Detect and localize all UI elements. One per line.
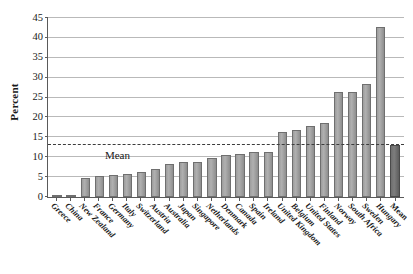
bar-slot — [78, 18, 92, 197]
x-label-slot: Spain — [247, 202, 261, 274]
y-axis-tick-label: 40 — [33, 33, 44, 44]
x-label-slot: Canada — [233, 202, 247, 274]
y-axis-tick-label: 30 — [33, 72, 44, 83]
x-label-slot: Hungary — [374, 202, 388, 274]
bar-slot — [303, 18, 317, 197]
bar-slot — [120, 18, 134, 197]
bar-slot — [374, 18, 388, 197]
x-label-slot: New Zealand — [77, 202, 91, 274]
mean-reference-line — [48, 144, 404, 145]
x-label-slot: Mean — [388, 202, 402, 274]
x-label-slot: Germany — [106, 202, 120, 274]
x-axis-tick-mark — [211, 198, 212, 201]
bar-sweden — [362, 84, 371, 197]
bar-ireland — [264, 152, 273, 197]
bar-chart: Percent 051015202530354045 Mean GreeceCh… — [0, 0, 413, 274]
bar-germany — [109, 175, 118, 197]
y-axis-tick-label: 20 — [33, 112, 44, 123]
x-label-slot: Austria — [148, 202, 162, 274]
x-axis-label: Mean — [388, 202, 409, 222]
x-label-slot: United Kingdom — [275, 202, 289, 274]
plot-area: 051015202530354045 Mean — [47, 18, 404, 198]
x-label-slot: Finland — [317, 202, 331, 274]
bar-slot — [163, 18, 177, 197]
x-label-slot: Greece — [49, 202, 63, 274]
bar-belgium — [292, 130, 301, 197]
bar-slot — [106, 18, 120, 197]
y-axis-tick-label: 25 — [33, 92, 44, 103]
bar-slot — [191, 18, 205, 197]
bar-denmark — [221, 155, 230, 197]
x-axis-labels: GreeceChinaNew ZealandFranceGermanyItaly… — [47, 202, 404, 274]
y-axis-tick-label: 0 — [38, 192, 43, 203]
bar-italy — [123, 174, 132, 197]
x-label-slot: Norway — [332, 202, 346, 274]
bar-slot — [177, 18, 191, 197]
bar-netherlands — [207, 158, 216, 197]
bar-slot — [289, 18, 303, 197]
y-axis-tick-label: 10 — [33, 152, 44, 163]
bar-slot — [205, 18, 219, 197]
x-label-slot: Italy — [120, 202, 134, 274]
bar-slot — [233, 18, 247, 197]
bar-australia — [165, 164, 174, 197]
bar-slot — [346, 18, 360, 197]
x-axis-tick-mark — [324, 198, 325, 201]
y-axis-title: Percent — [8, 67, 20, 137]
bar-finland — [320, 123, 329, 197]
x-label-slot: Japan — [176, 202, 190, 274]
bar-greece — [52, 195, 61, 197]
bar-hungary — [376, 27, 385, 197]
bar-slot — [92, 18, 106, 197]
mean-line-label: Mean — [105, 149, 130, 161]
bar-slot — [388, 18, 402, 197]
bar-canada — [235, 154, 244, 197]
bar-spain — [249, 152, 258, 197]
bar-mean — [390, 145, 399, 198]
bar-slot — [247, 18, 261, 197]
bar-united-states — [306, 126, 315, 197]
bar-slot — [332, 18, 346, 197]
bar-slot — [134, 18, 148, 197]
bar-united-kingdom — [278, 132, 287, 197]
bar-slot — [360, 18, 374, 197]
bar-slot — [261, 18, 275, 197]
y-axis-tick-label: 15 — [33, 132, 44, 143]
bar-slot — [50, 18, 64, 197]
bar-slot — [317, 18, 331, 197]
bar-new-zealand — [81, 178, 90, 197]
x-label-slot: Singapore — [190, 202, 204, 274]
y-axis-tick-label: 5 — [38, 172, 43, 183]
y-axis-tick-label: 35 — [33, 53, 44, 64]
bar-france — [95, 176, 104, 197]
x-label-slot: United States — [303, 202, 317, 274]
x-label-slot: Belgium — [289, 202, 303, 274]
x-label-slot: Switzerland — [134, 202, 148, 274]
x-label-slot: Sweden — [360, 202, 374, 274]
x-label-slot: France — [91, 202, 105, 274]
x-label-slot: Netherlands — [204, 202, 218, 274]
bar-austria — [151, 169, 160, 197]
x-axis-tick-mark — [98, 198, 99, 201]
bar-switzerland — [137, 172, 146, 197]
bar-slot — [219, 18, 233, 197]
x-label-slot: South Africa — [346, 202, 360, 274]
bar-series — [48, 18, 404, 197]
x-label-slot: Australia — [162, 202, 176, 274]
x-label-slot: Denmark — [219, 202, 233, 274]
bar-japan — [179, 162, 188, 197]
x-label-slot: Ireland — [261, 202, 275, 274]
bar-singapore — [193, 162, 202, 197]
bar-slot — [149, 18, 163, 197]
x-label-slot: China — [63, 202, 77, 274]
bar-china — [66, 195, 75, 197]
y-axis-tick-label: 45 — [33, 13, 44, 24]
bar-slot — [64, 18, 78, 197]
bar-slot — [275, 18, 289, 197]
